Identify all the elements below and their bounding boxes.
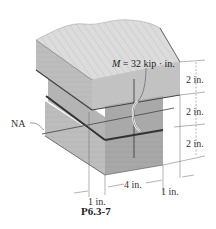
dim-height-bottom: 2 in.	[186, 139, 204, 149]
na-leader	[30, 123, 44, 130]
figure-caption: P6.3-7	[81, 205, 111, 217]
dim-web-width: 4 in.	[124, 180, 142, 190]
dim-height-middle: 2 in.	[186, 107, 204, 117]
neutral-axis-label: NA	[11, 119, 25, 129]
dim-right-overhang: 1 in.	[161, 187, 179, 197]
dim-height-top: 2 in.	[186, 75, 204, 85]
beam-diagram	[0, 0, 216, 229]
moment-label: M = 32 kip · in.	[112, 58, 175, 69]
